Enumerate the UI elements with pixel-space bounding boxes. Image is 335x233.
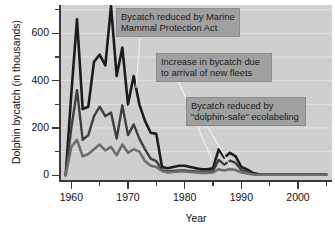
x-tick-minor	[156, 181, 157, 186]
annotation-new-fleets: Increase in bycatch due to arrival of ne…	[156, 53, 272, 82]
chart-figure: Dolphin bycatch (in thousands) 020040060…	[0, 0, 335, 233]
x-tick-major	[297, 181, 298, 189]
y-axis-line	[59, 5, 61, 181]
x-tick-minor	[269, 181, 270, 186]
y-tick-minor	[55, 56, 60, 57]
x-tick-label: 1980	[160, 191, 210, 203]
y-tick-minor	[55, 104, 60, 105]
y-axis-title: Dolphin bycatch (in thousands)	[10, 5, 22, 180]
x-tick-minor	[212, 181, 213, 186]
y-tick-label: 400	[31, 74, 49, 86]
x-tick-label: 2000	[273, 191, 323, 203]
x-tick-major	[241, 181, 242, 189]
y-tick-major	[52, 175, 60, 176]
x-tick-major	[71, 181, 72, 189]
y-tick-major	[52, 127, 60, 128]
x-tick-minor	[99, 181, 100, 186]
y-tick-major	[52, 80, 60, 81]
x-axis-title: Year	[60, 212, 332, 224]
x-tick-minor	[326, 181, 327, 186]
y-tick-minor	[55, 151, 60, 152]
x-tick-label: 1960	[46, 191, 96, 203]
annotation-mmpa: Bycatch reduced by Marine Mammal Protect…	[116, 8, 240, 37]
y-tick-label: 600	[31, 26, 49, 38]
x-tick-label: 1990	[216, 191, 266, 203]
series-ecolabeling-affected-bycatch	[66, 140, 327, 175]
x-tick-label: 1970	[103, 191, 153, 203]
y-tick-label: 200	[31, 121, 49, 133]
y-tick-major	[52, 33, 60, 34]
y-tick-label: 0	[43, 168, 49, 180]
x-tick-major	[184, 181, 185, 189]
x-tick-major	[127, 181, 128, 189]
y-tick-minor	[55, 9, 60, 10]
annotation-ecolabeling: Bycatch reduced by "dolphin-safe" ecolab…	[186, 97, 306, 126]
